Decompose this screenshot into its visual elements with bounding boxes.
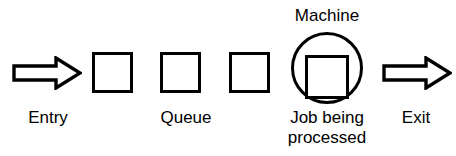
job-being-processed-line-2: processed xyxy=(288,128,366,147)
job-being-processed-line-1: Job being xyxy=(290,108,364,127)
exit-label: Exit xyxy=(382,108,450,128)
queueing-diagram-canvas: Entry Queue Machine Job being processed … xyxy=(0,0,456,156)
queue-job-square-2 xyxy=(160,52,201,93)
job-being-processed-label: Job being processed xyxy=(272,108,382,148)
queue-job-square-3 xyxy=(229,52,270,93)
job-in-machine-square xyxy=(305,55,349,99)
queue-job-square-1 xyxy=(92,52,133,93)
entry-label: Entry xyxy=(8,108,88,128)
machine-label: Machine xyxy=(276,6,378,26)
entry-arrow-icon xyxy=(12,56,82,90)
queue-label: Queue xyxy=(140,108,232,128)
exit-arrow-icon xyxy=(382,56,452,90)
